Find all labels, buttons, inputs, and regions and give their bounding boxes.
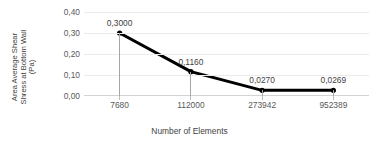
- data-point-label: 0,0270: [249, 75, 275, 85]
- x-axis-tick-label: 952389: [319, 100, 347, 110]
- x-axis-tick-labels: 7680112000273942952389: [84, 100, 369, 116]
- x-axis-tick-label: 7680: [110, 100, 129, 110]
- x-axis-title: Number of Elements: [0, 126, 379, 136]
- y-axis-title: Area Average Shear Shress at Bottom Wall…: [0, 0, 48, 125]
- y-axis-title-line-3: (Pa): [28, 60, 37, 74]
- y-axis-tick-label: 0,10: [64, 70, 80, 80]
- line-chart: Area Average Shear Shress at Bottom Wall…: [0, 0, 379, 148]
- y-axis-tick-label: 0,40: [64, 7, 80, 17]
- x-axis-tick-label: 273942: [248, 100, 276, 110]
- data-point-label: 0,3000: [107, 18, 133, 28]
- data-point-label: 0,1160: [178, 57, 203, 67]
- y-axis-tick-labels: 0,000,100,200,300,40: [50, 8, 80, 100]
- gridline: [84, 33, 369, 34]
- gridline: [84, 54, 369, 55]
- plot-area: 0,30000,11600,02700,0269: [84, 12, 369, 96]
- gridline: [84, 12, 369, 13]
- data-point-label: 0,0269: [321, 75, 347, 85]
- dropline: [190, 72, 191, 96]
- x-axis-tick-label: 112000: [177, 100, 204, 110]
- y-axis-tick-label: 0,20: [64, 49, 80, 59]
- y-axis-tick-label: 0,00: [64, 91, 80, 101]
- dropline: [119, 33, 120, 96]
- y-axis-tick-label: 0,30: [64, 28, 80, 38]
